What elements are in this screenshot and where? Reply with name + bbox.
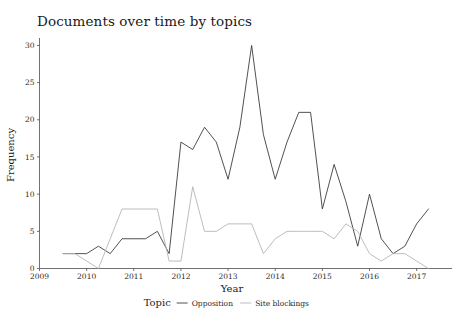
y-axis-title: Frequency [5,128,16,182]
chart-legend: TopicOppositionSite blockings [144,297,309,308]
data-series-group [63,45,428,268]
x-tick-label: 2017 [407,272,426,281]
x-tick-label: 2015 [313,272,332,281]
x-tick-label: 2011 [124,272,143,281]
legend-title: Topic [144,297,172,308]
y-tick-label: 30 [25,41,35,50]
legend-label-site-blockings: Site blockings [255,299,309,308]
x-tick-label: 2012 [171,272,190,281]
x-axis-title: Year [220,283,244,294]
y-tick-label: 25 [25,78,35,87]
y-tick-label: 5 [30,227,35,236]
chart-container: Documents over time by topics 0510152025… [0,0,465,319]
series-line-opposition [63,45,428,253]
x-tick-label: 2010 [77,272,96,281]
y-tick-label: 15 [25,153,35,162]
x-tick-label: 2014 [266,272,285,281]
y-tick-label: 10 [25,190,35,199]
y-axis-ticks: 051015202530 [25,41,40,273]
y-tick-label: 20 [25,115,35,124]
x-tick-label: 2009 [30,272,49,281]
line-chart-plot: 051015202530 200920102011201220132014201… [0,0,465,319]
x-axis-ticks: 200920102011201220132014201520162017 [30,269,426,282]
series-line-site-blockings [63,187,428,269]
x-tick-label: 2016 [360,272,379,281]
legend-label-opposition: Opposition [192,299,233,308]
x-tick-label: 2013 [219,272,238,281]
